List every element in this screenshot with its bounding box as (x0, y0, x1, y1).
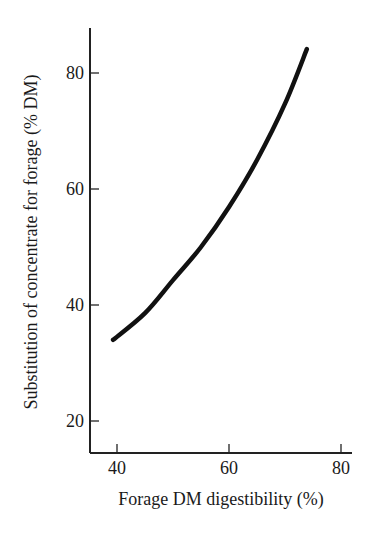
y-axis-label: Substitution of concentrate for forage (… (21, 75, 42, 410)
y-tick-label: 60 (66, 179, 84, 199)
y-ticks: 20406080 (66, 63, 99, 431)
x-tick-label: 80 (332, 458, 350, 478)
data-line (113, 49, 307, 340)
chart: 20406080 406080 Forage DM digestibility … (0, 0, 372, 534)
x-axis-label: Forage DM digestibility (%) (118, 489, 323, 510)
y-tick-label: 20 (66, 411, 84, 431)
y-tick-label: 80 (66, 63, 84, 83)
x-tick-label: 60 (220, 458, 238, 478)
y-tick-label: 40 (66, 295, 84, 315)
x-ticks: 406080 (108, 444, 350, 478)
plot-area: 20406080 406080 (66, 28, 352, 478)
x-tick-label: 40 (108, 458, 126, 478)
